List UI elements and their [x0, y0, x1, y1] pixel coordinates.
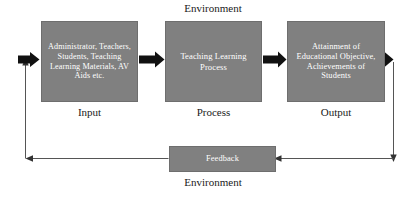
arrow-input-to-process: [139, 52, 165, 68]
caption-environment-top: Environment: [148, 2, 278, 14]
node-feedback-text: Feedback: [170, 154, 275, 164]
caption-environment-bottom: Environment: [148, 176, 278, 188]
node-feedback: Feedback: [169, 146, 276, 172]
node-input-text: Administrator, Teachers, Students, Teach…: [42, 42, 137, 81]
node-output: Attainment of Educational Objective, Ach…: [287, 21, 385, 102]
node-process: Teaching Learning Process: [165, 21, 262, 102]
caption-process: Process: [165, 106, 262, 118]
node-input: Administrator, Teachers, Students, Teach…: [41, 21, 138, 102]
systems-approach-diagram: Administrator, Teachers, Students, Teach…: [0, 0, 419, 201]
arrow-into-input: [18, 52, 40, 67]
arrow-process-to-output: [263, 52, 287, 68]
caption-output: Output: [287, 106, 385, 118]
node-output-text: Attainment of Educational Objective, Ach…: [288, 42, 384, 82]
caption-input: Input: [41, 106, 138, 118]
node-process-text: Teaching Learning Process: [166, 51, 261, 71]
